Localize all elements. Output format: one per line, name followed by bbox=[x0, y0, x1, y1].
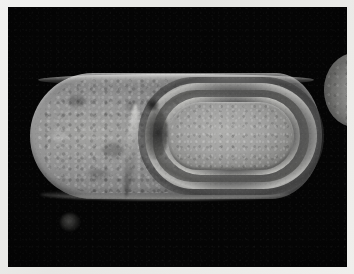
cytoplasm-mottle bbox=[68, 95, 86, 107]
engulfment-dense-dot bbox=[146, 99, 159, 111]
cytoplasm-mottle bbox=[102, 143, 124, 157]
micrograph-plate bbox=[8, 7, 347, 267]
engulfment-notch bbox=[142, 107, 168, 159]
spore-core-texture bbox=[170, 104, 292, 168]
endospore bbox=[138, 77, 324, 195]
sporangium-cell bbox=[30, 73, 322, 199]
cytoplasm-mottle bbox=[88, 169, 108, 179]
cytoplasm-mottle bbox=[52, 131, 67, 142]
micrograph-figure: Transmission electron micrograph of a sp… bbox=[0, 0, 354, 274]
adjacent-cell-texture bbox=[326, 55, 347, 125]
stain-debris-speck bbox=[60, 213, 80, 231]
